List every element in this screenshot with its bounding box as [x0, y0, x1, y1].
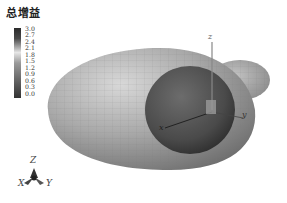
triad-z-label: Z	[30, 155, 36, 165]
triad-x-label: X	[18, 178, 24, 188]
triad-y-label: Y	[46, 178, 52, 188]
orientation-triad-icon	[0, 0, 287, 203]
